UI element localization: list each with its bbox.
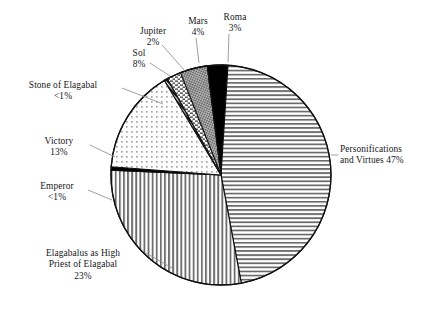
slice-label-roma-value: 3% xyxy=(215,23,255,34)
pie-chart: Stone of Elagabal <1% Sol 8% Jupiter 2% … xyxy=(0,0,437,314)
slice-label-victory: Victory 13% xyxy=(28,136,90,159)
slice-label-mars-value: 4% xyxy=(180,27,216,38)
slice-personifications-and-virtues xyxy=(221,65,331,283)
slice-label-sol-value: 8% xyxy=(117,59,161,70)
slice-label-elagabalus-line2: Priest of Elagabal xyxy=(18,259,148,270)
slice-label-personifications-line2: and Virtues 47% xyxy=(340,155,436,166)
slice-label-jupiter-value: 2% xyxy=(128,37,178,48)
slice-label-elagabalus-value: 23% xyxy=(18,271,148,282)
slice-label-mars-name: Mars xyxy=(180,16,216,27)
slice-label-victory-name: Victory xyxy=(28,136,90,147)
slice-label-elagabalus-as-high-priest: Elagabalus as High Priest of Elagabal 23… xyxy=(18,248,148,282)
slice-label-victory-value: 13% xyxy=(28,147,90,158)
slice-label-jupiter-name: Jupiter xyxy=(128,26,178,37)
slice-label-mars: Mars 4% xyxy=(180,16,216,39)
slice-label-jupiter: Jupiter 2% xyxy=(128,26,178,49)
slice-label-elagabalus-line1: Elagabalus as High xyxy=(18,248,148,259)
slice-label-emperor: Emperor <1% xyxy=(24,181,90,204)
slice-label-emperor-value: <1% xyxy=(24,192,90,203)
slice-label-sol: Sol 8% xyxy=(117,48,161,71)
leader-line-roma xyxy=(228,34,229,62)
slice-label-personifications-line1: Personifications xyxy=(340,144,436,155)
slice-label-stone-of-elagabal-name: Stone of Elagabal xyxy=(4,80,122,91)
slice-label-personifications-and-virtues: Personifications and Virtues 47% xyxy=(340,144,436,167)
leader-line-jupiter xyxy=(162,45,185,71)
slice-label-roma-name: Roma xyxy=(215,12,255,23)
slice-label-stone-of-elagabal: Stone of Elagabal <1% xyxy=(4,80,122,103)
leader-line-emperor xyxy=(88,190,112,200)
slice-label-sol-name: Sol xyxy=(117,48,161,59)
slice-label-stone-of-elagabal-value: <1% xyxy=(4,91,122,102)
slice-label-emperor-name: Emperor xyxy=(24,181,90,192)
leader-line-mars xyxy=(196,38,199,63)
leader-line-victory xyxy=(90,145,115,157)
slice-label-roma: Roma 3% xyxy=(215,12,255,35)
